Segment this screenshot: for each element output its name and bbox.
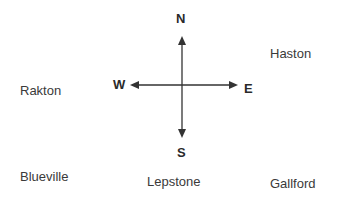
town-lepstone: Lepstone <box>147 174 201 189</box>
town-gallford: Gallford <box>270 176 316 191</box>
town-blueville: Blueville <box>20 169 68 184</box>
compass-west-label: W <box>113 77 125 92</box>
compass-north-label: N <box>176 11 185 26</box>
town-rakton: Rakton <box>20 83 61 98</box>
town-haston: Haston <box>270 46 311 61</box>
compass-east-label: E <box>244 81 253 96</box>
compass-south-label: S <box>177 145 186 160</box>
